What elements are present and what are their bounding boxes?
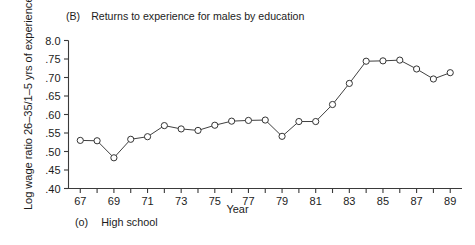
svg-text:.40: .40 — [45, 183, 60, 195]
svg-text:.65: .65 — [45, 90, 60, 102]
x-axis-title: Year — [0, 203, 475, 215]
svg-text:.70: .70 — [45, 72, 60, 84]
legend-label: High school — [101, 216, 157, 228]
series-line-high-school — [80, 60, 450, 158]
svg-text:.45: .45 — [45, 164, 60, 176]
svg-text:.55: .55 — [45, 127, 60, 139]
svg-text:.50: .50 — [45, 146, 60, 158]
y-axis-ticks: 8.0.75.70.65.60.55.50.45.40 — [45, 35, 68, 195]
legend-open-circle-icon: (o) — [75, 216, 88, 228]
chart-legend: (o)High school — [75, 216, 158, 228]
series-markers-high-school — [77, 57, 453, 161]
chart-figure: Log wage ratio 26–35/1–5 yrs of experien… — [0, 0, 475, 245]
svg-text:8.0: 8.0 — [45, 35, 60, 47]
svg-text:.75: .75 — [45, 53, 60, 65]
svg-text:.60: .60 — [45, 109, 60, 121]
axis-lines — [69, 41, 463, 189]
